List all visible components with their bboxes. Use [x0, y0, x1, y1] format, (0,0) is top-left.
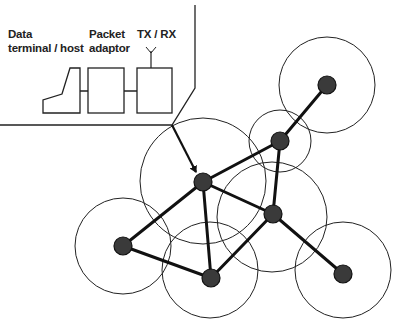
node-left — [114, 237, 132, 255]
node-upper-relay — [271, 132, 289, 150]
adaptor-label-line2: adaptor — [89, 42, 130, 54]
packet-adaptor-box — [88, 68, 124, 113]
link-central-upper-relay — [203, 141, 280, 182]
node-right-middle — [264, 205, 282, 223]
node-bottom — [202, 269, 220, 287]
link-left-bottom — [123, 246, 211, 278]
network-links — [123, 85, 343, 278]
link-central-right-middle — [203, 182, 273, 214]
link-upper-relay-right-middle — [273, 141, 280, 214]
callout-arrow — [172, 125, 196, 172]
terminal-icon — [43, 68, 80, 113]
adaptor-label-line1: Packet — [89, 28, 125, 40]
radio-box — [137, 68, 172, 113]
callout-frame — [0, 5, 195, 125]
link-central-left — [123, 182, 203, 246]
radio-label: TX / RX — [137, 28, 176, 40]
node-bottom-right — [334, 265, 352, 283]
terminal-label-line2: terminal / host — [8, 42, 84, 54]
antenna-icon — [146, 47, 156, 68]
packet-radio-network-diagram: Data terminal / host Packet adaptor TX /… — [0, 0, 398, 326]
node-central — [194, 173, 212, 191]
link-central-bottom — [203, 182, 211, 278]
terminal-label-line1: Data — [8, 28, 33, 40]
node-top-right — [318, 76, 336, 94]
